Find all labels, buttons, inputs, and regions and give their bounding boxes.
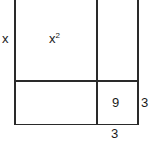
right-edge-line [137,0,139,125]
middle-horizontal-line [14,80,139,82]
side-label-3-right: 3 [141,96,148,109]
middle-vertical-line [96,0,98,125]
side-label-x: x [2,32,9,45]
area-label-9: 9 [112,96,119,109]
side-label-3-bottom: 3 [111,127,118,140]
area-label-x-squared: x2 [49,32,60,45]
bottom-edge-line [14,124,139,126]
left-edge-line [14,0,16,125]
area-label-exponent: 2 [56,31,60,40]
